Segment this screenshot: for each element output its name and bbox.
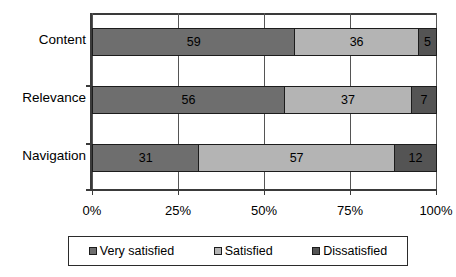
bar-segment-value: 36 [350,36,364,49]
x-axis-label-25: 25% [165,203,191,218]
x-axis-tick-75 [350,189,351,195]
bar-segment-value: 56 [182,94,196,107]
category-label-content: Content [0,32,86,47]
x-axis-tick-50 [264,189,265,195]
stacked-bar-chart: Content Relevance Navigation 59 36 [0,0,456,277]
plot-area: 59 36 5 56 37 7 31 [92,13,437,189]
legend-swatch-icon [312,247,320,255]
x-axis-label-75: 75% [337,203,363,218]
table-row[interactable]: 31 57 12 [92,144,437,172]
legend-item-dissatisfied[interactable]: Dissatisfied [312,245,387,258]
y-axis-tick-3 [86,189,91,191]
table-row[interactable]: 59 36 5 [92,28,437,56]
bar-segment-value: 12 [408,152,422,165]
x-axis-label-50: 50% [251,203,277,218]
bar-segment-value: 57 [290,152,304,165]
bar-segment-content-satisfied[interactable]: 36 [295,29,418,55]
bar-segment-value: 7 [421,94,428,107]
legend-item-satisfied[interactable]: Satisfied [214,245,273,258]
bar-segment-relevance-dissatisfied[interactable]: 7 [412,87,436,113]
bar-segment-value: 5 [424,36,431,49]
category-label-navigation: Navigation [0,148,86,163]
y-axis-tick-1 [86,85,91,87]
bar-segment-value: 31 [139,152,153,165]
legend-item-very-satisfied[interactable]: Very satisfied [89,245,174,258]
chart-legend: Very satisfied Satisfied Dissatisfied [68,236,408,266]
bar-segment-value: 59 [187,36,201,49]
bar-segment-value: 37 [341,94,355,107]
bar-segment-content-dissatisfied[interactable]: 5 [419,29,436,55]
category-label-relevance: Relevance [0,90,86,105]
bar-segment-content-very-satisfied[interactable]: 59 [93,29,295,55]
x-axis-tick-25 [178,189,179,195]
table-row[interactable]: 56 37 7 [92,86,437,114]
x-axis-tick-0 [92,189,93,195]
legend-item-label: Dissatisfied [323,245,387,258]
x-axis-tick-100 [436,189,437,195]
x-axis-label-100: 100% [419,203,452,218]
bar-segment-relevance-satisfied[interactable]: 37 [285,87,412,113]
x-axis-label-0: 0% [83,203,102,218]
legend-swatch-icon [214,247,222,255]
legend-swatch-icon [89,247,97,255]
bar-segment-relevance-very-satisfied[interactable]: 56 [93,87,285,113]
bar-segment-navigation-very-satisfied[interactable]: 31 [93,145,199,171]
y-axis-tick-2 [86,143,91,145]
legend-item-label: Satisfied [225,245,273,258]
bar-segment-navigation-satisfied[interactable]: 57 [199,145,395,171]
legend-item-label: Very satisfied [100,245,174,258]
bar-segment-navigation-dissatisfied[interactable]: 12 [395,145,436,171]
